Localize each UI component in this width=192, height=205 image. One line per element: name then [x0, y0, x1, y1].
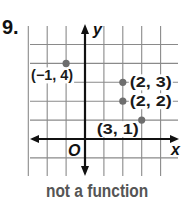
point-label: (2, 2)	[130, 93, 172, 109]
point-label: (−1, 4)	[31, 67, 73, 83]
point-label: (2, 3)	[130, 74, 172, 90]
point-labels: (−1, 4)(2, 3)(2, 2)(3, 1)	[30, 67, 173, 137]
data-point	[119, 98, 126, 105]
y-axis-label: y	[92, 21, 103, 38]
origin-label: O	[68, 142, 81, 159]
data-point	[138, 117, 145, 124]
coordinate-plane: (−1, 4)(2, 3)(2, 2)(3, 1) yxO	[0, 0, 192, 205]
y-axis-down-arrow-icon	[81, 166, 89, 176]
point-label: (3, 1)	[97, 121, 139, 137]
data-point	[119, 79, 126, 86]
y-axis-up-arrow-icon	[81, 24, 89, 34]
caption: not a function	[15, 181, 180, 202]
x-axis-left-arrow-icon	[30, 135, 39, 143]
x-axis-label: x	[170, 141, 181, 158]
data-point	[63, 60, 70, 67]
